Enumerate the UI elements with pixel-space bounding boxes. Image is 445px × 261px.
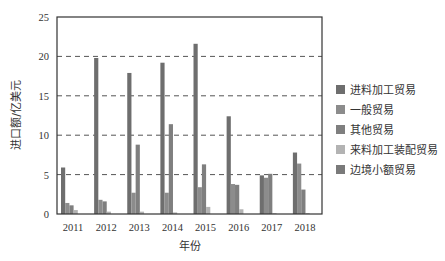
bar [136, 145, 140, 214]
y-tick-label: 0 [44, 209, 49, 220]
bar-chart: 0510152025 20112012201320142015201620172… [0, 0, 445, 261]
legend-swatch [336, 145, 345, 154]
x-tick-label: 2016 [228, 222, 249, 233]
x-tick-label: 2015 [195, 222, 216, 233]
bars [61, 44, 310, 214]
y-tick-label: 20 [39, 51, 50, 62]
legend-label: 进料加工贸易 [350, 83, 416, 97]
bar [169, 124, 173, 214]
legend: 进料加工贸易一般贸易其他贸易来料加工装配贸易边境小额贸易 [336, 83, 438, 177]
bar [260, 175, 264, 214]
bar [98, 200, 102, 214]
bar [264, 178, 268, 214]
bar [239, 209, 243, 214]
bar [301, 190, 305, 214]
y-tick-label: 10 [39, 130, 50, 141]
x-axis-label: 年份 [179, 239, 201, 253]
x-tick-label: 2018 [294, 222, 315, 233]
bar [127, 73, 131, 214]
x-tick-label: 2011 [63, 222, 84, 233]
y-axis-label: 进口额/亿美元 [10, 80, 23, 150]
bar [61, 168, 65, 214]
bar [160, 63, 164, 214]
bar [297, 164, 301, 214]
bar [293, 153, 297, 214]
bar [165, 193, 169, 214]
y-axis-ticks: 0510152025 [39, 12, 50, 220]
bar [94, 58, 98, 214]
x-axis-ticks: 20112012201320142015201620172018 [63, 222, 316, 233]
legend-label: 一般贸易 [350, 104, 394, 117]
legend-swatch [336, 165, 345, 174]
legend-label: 来料加工装配贸易 [350, 143, 438, 157]
legend-swatch [336, 125, 345, 134]
bar [235, 185, 239, 214]
bar [202, 164, 206, 214]
y-tick-label: 25 [39, 12, 50, 23]
bar [65, 203, 69, 214]
bar [69, 205, 73, 214]
legend-label: 边境小额贸易 [350, 163, 416, 177]
legend-label: 其他贸易 [350, 124, 394, 137]
bar [103, 201, 107, 214]
bar [231, 184, 235, 214]
legend-swatch [336, 85, 345, 94]
bar [194, 44, 198, 214]
x-tick-label: 2013 [129, 222, 150, 233]
y-tick-label: 15 [39, 91, 50, 102]
bar [198, 187, 202, 214]
legend-swatch [336, 105, 345, 114]
bar [131, 193, 135, 214]
x-tick-label: 2014 [162, 222, 184, 233]
x-tick-label: 2012 [96, 222, 117, 233]
y-tick-label: 5 [44, 170, 49, 181]
bar [227, 116, 231, 214]
bar [206, 207, 210, 214]
x-tick-label: 2017 [261, 222, 282, 233]
bar [268, 174, 272, 214]
